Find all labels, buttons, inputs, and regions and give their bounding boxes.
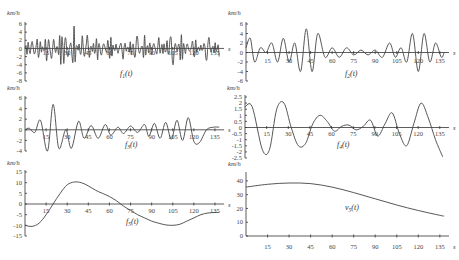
y-tick-label: -15 xyxy=(13,232,22,239)
y-tick-label: 40 xyxy=(237,177,244,184)
data-curve xyxy=(25,104,219,151)
y-tick-label: -5 xyxy=(17,211,22,218)
x-tick-label: 90 xyxy=(372,57,379,64)
y-unit-label: km/h xyxy=(228,160,241,167)
y-tick-label: 10 xyxy=(237,218,244,225)
x-tick-label: 15 xyxy=(43,207,50,214)
x-tick-label: 60 xyxy=(329,243,336,250)
y-tick-label: -10 xyxy=(13,222,22,229)
function-label: f5(t) xyxy=(126,217,139,227)
data-curve xyxy=(25,26,219,65)
y-tick-label: 4 xyxy=(19,28,23,35)
y-tick-label: 2 xyxy=(19,115,22,122)
y-unit-label: km/h xyxy=(7,84,20,91)
y-unit-label: km/h xyxy=(7,159,20,166)
y-tick-label: 30 xyxy=(237,191,244,198)
y-tick-label: 0 xyxy=(19,200,22,207)
x-tick-label: 135 xyxy=(435,243,445,250)
x-tick-label: 90 xyxy=(148,133,155,140)
x-tick-label: 90 xyxy=(148,207,155,214)
x-tick-label: 135 xyxy=(435,57,445,64)
function-label: f2(t) xyxy=(345,69,358,79)
x-unit-label: s xyxy=(228,126,231,133)
y-tick-label: 2 xyxy=(240,39,243,46)
data-curve xyxy=(246,29,444,72)
chart-panel-1: 6420-2-4-6-8153045607590105120135skm/hf1… xyxy=(7,9,231,84)
x-tick-label: 15 xyxy=(263,130,270,137)
x-tick-label: 105 xyxy=(392,57,402,64)
y-tick-label: -4 xyxy=(238,68,244,75)
y-tick-label: 2 xyxy=(19,36,22,43)
x-tick-label: 105 xyxy=(392,243,402,250)
x-tick-label: 75 xyxy=(350,243,357,250)
y-tick-label: 5 xyxy=(19,190,22,197)
x-unit-label: s xyxy=(453,49,456,56)
x-unit-label: s xyxy=(228,45,231,52)
y-tick-label: 6 xyxy=(240,20,244,27)
x-tick-label: 90 xyxy=(372,243,379,250)
x-tick-label: 135 xyxy=(210,133,220,140)
x-tick-label: 60 xyxy=(329,57,336,64)
chart-panel-3: 6420-2-4153045607590105120135skm/hf3(t) xyxy=(7,84,231,154)
y-unit-label: km/h xyxy=(7,9,20,16)
x-unit-label: s xyxy=(228,201,231,208)
chart-panel-4: 2.521.510.50-0.5-1-1.5-2-2.5153045607590… xyxy=(227,84,456,161)
chart-panel-6: 010203040153045607590105120135skm/hv5(t) xyxy=(228,160,456,250)
x-unit-label: s xyxy=(453,243,456,250)
y-tick-label: 0 xyxy=(240,49,243,56)
y-unit-label: km/h xyxy=(228,9,241,16)
y-tick-label: -2 xyxy=(17,53,22,60)
chart-panel-2: 6420-2-4-6153045607590105120135skm/hf2(t… xyxy=(228,9,456,84)
y-tick-label: 0 xyxy=(19,45,22,52)
y-tick-label: 6 xyxy=(19,20,23,27)
x-tick-label: 15 xyxy=(264,243,271,250)
y-tick-label: 10 xyxy=(16,179,23,186)
y-tick-label: 4 xyxy=(19,105,23,112)
x-tick-label: 45 xyxy=(307,243,314,250)
x-tick-label: 120 xyxy=(189,207,199,214)
x-tick-label: 30 xyxy=(64,207,71,214)
x-tick-label: 120 xyxy=(413,57,423,64)
function-label: f1(t) xyxy=(120,69,133,79)
y-tick-label: -2 xyxy=(238,58,243,65)
x-tick-label: 75 xyxy=(127,133,134,140)
y-tick-label: 6 xyxy=(19,94,23,101)
x-tick-label: 75 xyxy=(350,130,357,137)
x-tick-label: 105 xyxy=(168,207,178,214)
x-tick-label: 135 xyxy=(435,130,445,137)
y-tick-label: 20 xyxy=(237,205,244,212)
y-tick-label: -2 xyxy=(17,137,22,144)
y-tick-label: -6 xyxy=(17,69,23,76)
x-tick-label: 120 xyxy=(413,243,423,250)
x-tick-label: 120 xyxy=(189,133,199,140)
chart-panel-5: 151050-5-10-15153045607590105120135skm/h… xyxy=(7,159,231,239)
x-tick-label: 30 xyxy=(286,243,293,250)
y-tick-label: 0 xyxy=(240,232,243,239)
x-tick-label: 75 xyxy=(350,57,357,64)
x-tick-label: 15 xyxy=(264,57,271,64)
function-label: f3(t) xyxy=(125,140,138,150)
y-tick-label: 15 xyxy=(16,168,23,175)
y-tick-label: -4 xyxy=(17,147,23,154)
x-unit-label: s xyxy=(453,124,456,131)
x-tick-label: 120 xyxy=(413,130,423,137)
y-tick-label: 4 xyxy=(240,30,244,37)
y-tick-label: -4 xyxy=(17,61,23,68)
function-label: v5(t) xyxy=(345,203,359,213)
x-tick-label: 30 xyxy=(286,57,293,64)
x-tick-label: 45 xyxy=(85,207,92,214)
y-tick-label: 0 xyxy=(19,126,22,133)
x-tick-label: 60 xyxy=(106,207,113,214)
x-tick-label: 30 xyxy=(285,130,292,137)
y-unit-label: km/h xyxy=(227,84,240,91)
figure: 6420-2-4-6-8153045607590105120135skm/hf1… xyxy=(0,0,459,260)
function-label: f4(t) xyxy=(337,140,350,150)
